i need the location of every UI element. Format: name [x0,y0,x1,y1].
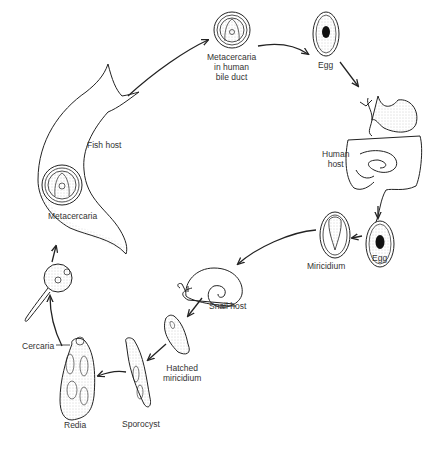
arrow-bile-to-egg [258,44,308,54]
label-metacercaria-bile: Metacercaria in human bile duct [207,52,256,82]
label-cercaria: Cercaria [22,341,54,351]
label-hatched-miricidium: Hatched miricidium [163,363,201,383]
arrow-redia-to-cercaria [50,296,62,346]
label-egg-right: Egg [372,253,387,263]
arrow-cercaria-to-fish [52,246,56,262]
redia-illustration [60,337,95,420]
label-miricidium: Miricidium [307,261,345,271]
label-snail-host: Snail host [209,301,246,311]
label-metacercaria-fish: Metacercaria [48,211,97,221]
label-human-host: Human host [322,149,349,169]
sporocyst-illustration [126,338,151,407]
arrow-hatched-to-sporocyst [148,344,166,360]
hatched-miricidium-illustration [165,315,190,354]
label-line: Hatched [163,363,201,373]
metacercaria-bile-illustration [214,12,250,48]
arrow-sporocyst-to-redia [98,371,126,376]
arrow-fish-to-bile [128,40,208,96]
label-egg-top: Egg [318,60,333,70]
label-line: host [322,159,349,169]
arrow-egg-to-miricidium [352,236,362,238]
label-line: miricidium [163,373,201,383]
fish-host-illustration [38,64,139,254]
label-line: Metacercaria [207,52,256,62]
label-line: Human [322,149,349,159]
label-redia: Redia [64,420,86,430]
arrow-egg-to-human [340,62,358,86]
cercaria-illustration [25,264,72,321]
human-host-illustration [346,96,422,222]
miricidium-illustration [320,212,350,258]
label-line: in human [207,62,256,72]
metacercaria-fish-illustration [42,165,82,205]
label-fish-host: Fish host [87,140,122,150]
label-sporocyst: Sporocyst [122,419,160,429]
label-line: bile duct [207,72,256,82]
arrow-miricidium-to-snail [238,230,316,264]
egg-top-illustration [313,12,339,56]
